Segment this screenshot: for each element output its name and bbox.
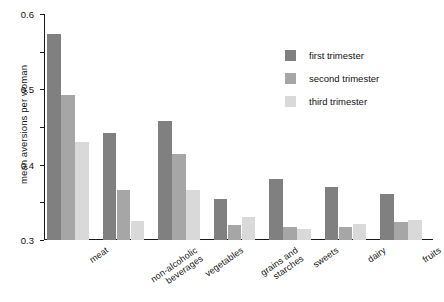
bar bbox=[172, 154, 186, 240]
y-tick-mark: 0.2 bbox=[40, 165, 44, 166]
bar bbox=[61, 95, 75, 240]
y-axis-title: mean aversions per woman bbox=[18, 45, 29, 205]
bar bbox=[269, 179, 283, 240]
x-axis-category-label: vegetables bbox=[203, 245, 245, 279]
x-axis-category-label: meat bbox=[87, 245, 110, 265]
y-tick-mark: 0.1 bbox=[40, 202, 44, 203]
legend-item: second trimester bbox=[285, 67, 379, 90]
bar bbox=[131, 221, 145, 240]
bar bbox=[75, 142, 89, 240]
y-tick-mark: 0.4 bbox=[40, 89, 44, 90]
bar-group bbox=[380, 14, 422, 240]
bar bbox=[214, 199, 228, 240]
bar bbox=[47, 34, 61, 240]
legend-item: third trimester bbox=[285, 90, 379, 113]
legend-label: third trimester bbox=[309, 96, 367, 107]
bar-group bbox=[214, 14, 256, 240]
bar bbox=[117, 190, 131, 240]
legend-swatch bbox=[285, 73, 296, 84]
bar bbox=[297, 229, 311, 240]
bar-group bbox=[103, 14, 145, 240]
bar bbox=[103, 133, 117, 240]
bar bbox=[158, 121, 172, 240]
y-tick-label: 0.6 bbox=[21, 9, 34, 20]
legend-swatch bbox=[285, 96, 296, 107]
bar bbox=[353, 224, 367, 240]
y-tick-label: 0.4 bbox=[21, 159, 34, 170]
bar-group bbox=[47, 14, 89, 240]
x-axis-category-label: dairy bbox=[365, 245, 387, 265]
y-tick-mark: 0 bbox=[40, 240, 44, 241]
legend-label: second trimester bbox=[309, 73, 379, 84]
bar bbox=[283, 227, 297, 240]
bar bbox=[339, 227, 353, 240]
legend: first trimestersecond trimesterthird tri… bbox=[285, 44, 379, 113]
y-tick-mark: 0.3 bbox=[40, 127, 44, 128]
bar-chart: mean aversions per woman 00.10.20.30.40.… bbox=[0, 0, 444, 302]
bar bbox=[228, 225, 242, 240]
bar bbox=[242, 217, 256, 240]
x-axis-category-label: non-alcoholic beverages bbox=[149, 245, 205, 293]
legend-label: first trimester bbox=[309, 50, 364, 61]
y-tick-label: 0.3 bbox=[21, 235, 34, 246]
legend-swatch bbox=[285, 50, 296, 61]
legend-item: first trimester bbox=[285, 44, 379, 67]
bar-group bbox=[158, 14, 200, 240]
bar bbox=[325, 187, 339, 240]
x-axis-category-label: sweets bbox=[311, 245, 340, 270]
y-tick-mark: 0.5 bbox=[40, 52, 44, 53]
x-axis-category-label: grains and starches bbox=[258, 245, 305, 286]
y-axis-line bbox=[44, 14, 45, 240]
x-axis-category-label: fruits bbox=[421, 245, 443, 265]
bar bbox=[186, 190, 200, 240]
bar bbox=[408, 220, 422, 240]
bar bbox=[380, 194, 394, 240]
y-tick-label: 0.5 bbox=[21, 84, 34, 95]
y-tick-mark: 0.6 bbox=[40, 14, 44, 15]
bar bbox=[394, 222, 408, 240]
